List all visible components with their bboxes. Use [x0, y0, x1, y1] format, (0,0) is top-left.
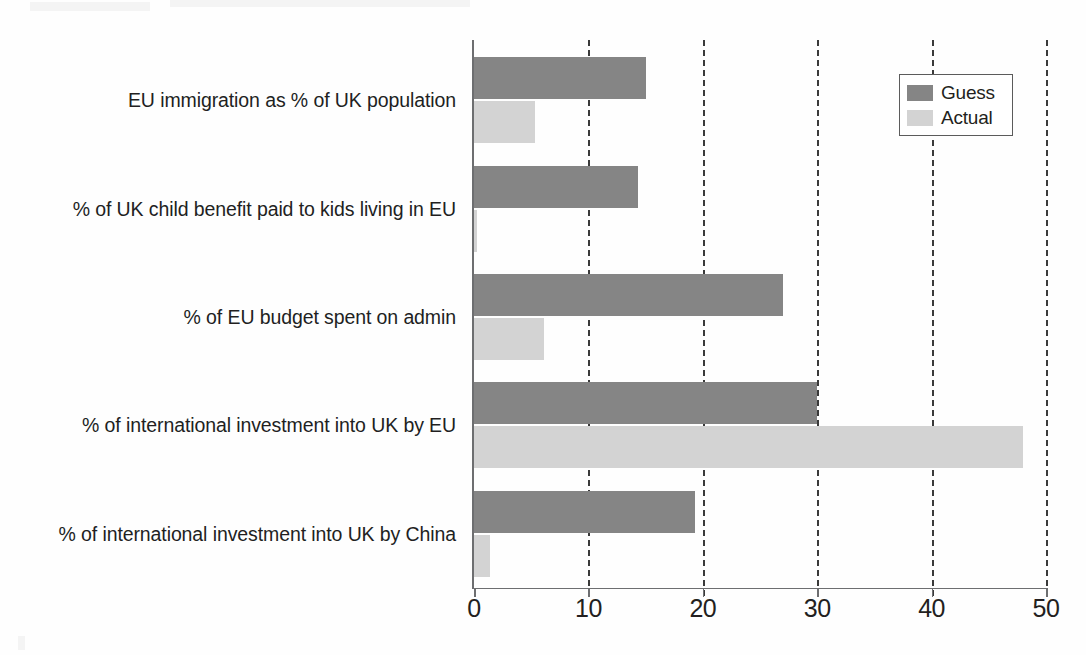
x-tick-label: 40: [918, 594, 945, 623]
legend-label: Actual: [941, 108, 993, 127]
actual-swatch: [907, 110, 933, 126]
bar-chart: EU immigration as % of UK population% of…: [0, 0, 1086, 655]
x-tick-label: 50: [1033, 594, 1060, 623]
bar-guess-0: [474, 57, 646, 99]
category-label-2: % of EU budget spent on admin: [184, 306, 456, 328]
x-tick-label: 10: [575, 594, 602, 623]
gridline-30: [817, 40, 819, 596]
category-label-4: % of international investment into UK by…: [58, 523, 456, 545]
bar-actual-0: [474, 101, 535, 143]
legend-item-actual[interactable]: Actual: [907, 105, 1006, 130]
scan-artifact: [18, 636, 25, 650]
bar-actual-4: [474, 535, 490, 577]
scan-artifact: [30, 2, 150, 11]
bar-actual-3: [474, 426, 1023, 468]
bar-guess-4: [474, 491, 695, 533]
x-tick-label: 20: [689, 594, 716, 623]
legend-item-guess[interactable]: Guess: [907, 80, 1006, 105]
x-axis-line: [472, 588, 1048, 590]
bar-guess-1: [474, 166, 638, 208]
bar-guess-3: [474, 382, 817, 424]
category-label-3: % of international investment into UK by…: [82, 414, 456, 436]
x-tick-label: 0: [467, 594, 480, 623]
x-tick-label: 30: [804, 594, 831, 623]
bar-actual-2: [474, 318, 544, 360]
legend-label: Guess: [941, 83, 995, 102]
category-label-1: % of UK child benefit paid to kids livin…: [73, 198, 456, 220]
scan-artifact: [170, 0, 470, 7]
category-label-0: EU immigration as % of UK population: [128, 89, 456, 111]
bar-guess-2: [474, 274, 783, 316]
bar-actual-1: [474, 210, 477, 252]
category-axis-labels: EU immigration as % of UK population% of…: [0, 46, 466, 588]
guess-swatch: [907, 85, 933, 101]
gridline-50: [1046, 40, 1048, 596]
legend: GuessActual: [899, 74, 1013, 136]
gridline-20: [703, 40, 705, 596]
